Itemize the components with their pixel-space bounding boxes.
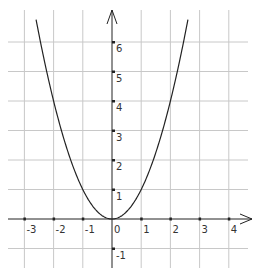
y-tick-label: 4: [116, 102, 122, 113]
x-tick-label: -3: [26, 224, 36, 235]
y-tick-label: -1: [116, 250, 126, 261]
y-tick: [112, 159, 115, 162]
x-tick: [228, 218, 231, 221]
y-tick: [112, 248, 115, 251]
x-tick-label: 4: [231, 224, 237, 235]
x-tick: [53, 218, 56, 221]
y-tick-label: 3: [116, 132, 122, 143]
y-tick: [112, 100, 115, 103]
y-tick: [112, 189, 115, 192]
y-tick: [112, 41, 115, 44]
y-tick-label: 6: [116, 43, 122, 54]
x-tick: [140, 218, 143, 221]
y-tick: [112, 71, 115, 74]
x-tick-label: -2: [56, 224, 66, 235]
y-tick: [112, 130, 115, 133]
y-tick-label: 1: [116, 191, 122, 202]
y-tick-label: 5: [116, 73, 122, 84]
x-tick: [199, 218, 202, 221]
x-tick-label: 3: [202, 224, 208, 235]
x-tick-label: 0: [114, 224, 120, 235]
x-tick-label: -1: [85, 224, 95, 235]
x-tick: [82, 218, 85, 221]
x-tick-labels: -3-2-101234: [26, 224, 237, 235]
x-tick: [23, 218, 26, 221]
x-tick-label: 1: [143, 224, 149, 235]
x-tick-label: 2: [172, 224, 178, 235]
grid-lines: [8, 10, 248, 268]
y-tick-label: 2: [116, 161, 122, 172]
plot-area: -3-2-101234 -1123456: [0, 0, 259, 276]
x-tick: [169, 218, 172, 221]
